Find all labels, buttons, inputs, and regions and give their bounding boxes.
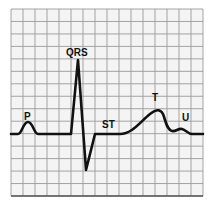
ecg-diagram: P QRS ST T U [0,0,213,204]
label-t: T [152,92,158,103]
label-st: ST [102,119,115,130]
label-p: P [24,111,31,122]
label-u: U [182,112,189,123]
label-qrs: QRS [66,47,88,58]
